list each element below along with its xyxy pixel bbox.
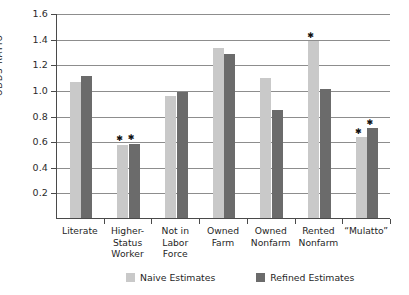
y-axis-tick-label: 1.6 [22, 8, 48, 19]
bar-group [70, 14, 93, 218]
x-axis-tick-mark [247, 219, 248, 224]
legend-item-naive: Naive Estimates [126, 272, 215, 283]
bar [260, 78, 271, 218]
bar-group: ✱✱ [117, 14, 140, 218]
legend-swatch-refined [256, 273, 265, 282]
chart-legend: Naive EstimatesRefined Estimates [126, 272, 354, 283]
bar [70, 82, 81, 218]
y-axis-tick-label: 1.4 [22, 34, 48, 45]
odds-ratio-bar-chart: ODDS RATIO 1.61.41.21.00.80.60.40.2 ✱✱✱✱… [0, 0, 409, 295]
y-axis-tick-label: 0.6 [22, 136, 48, 147]
significance-asterisk: ✱ [307, 32, 315, 40]
significance-asterisk: ✱ [116, 135, 124, 143]
plot-area: ✱✱✱✱✱ [56, 14, 390, 219]
x-axis-category-label: Owned Nonfarm [247, 225, 295, 248]
x-axis-category-label: Rented Nonfarm [295, 225, 343, 248]
legend-label: Refined Estimates [270, 272, 354, 283]
bar [177, 92, 188, 218]
y-axis-tick-label: 0.2 [22, 187, 48, 198]
bar-group [260, 14, 283, 218]
bar [224, 54, 235, 218]
significance-asterisk: ✱ [128, 134, 136, 142]
bar [320, 89, 331, 218]
bar [81, 76, 92, 218]
x-axis-tick-mark [199, 219, 200, 224]
legend-label: Naive Estimates [140, 272, 215, 283]
legend-item-refined: Refined Estimates [256, 272, 354, 283]
bar [367, 128, 378, 218]
x-axis-tick-mark [104, 219, 105, 224]
bar [117, 145, 128, 218]
x-axis-tick-mark [151, 219, 152, 224]
y-axis-title: ODDS RATIO [0, 34, 4, 96]
x-axis-tick-mark [390, 219, 391, 224]
bar-group: ✱✱ [356, 14, 379, 218]
bar-group [213, 14, 236, 218]
y-axis-tick-label: 1.0 [22, 85, 48, 96]
x-axis-tick-mark [342, 219, 343, 224]
bar [308, 41, 319, 218]
bar [356, 137, 367, 218]
x-axis-category-label: Higher- Status Worker [104, 225, 152, 260]
x-axis-category-label: “Mulatto” [342, 225, 390, 237]
bar-group: ✱ [308, 14, 331, 218]
legend-swatch-naive [126, 273, 135, 282]
significance-asterisk: ✱ [366, 119, 374, 127]
significance-asterisk: ✱ [355, 128, 363, 136]
bar [165, 96, 176, 218]
y-axis-tick-label: 1.2 [22, 59, 48, 70]
y-axis-tick-label: 0.4 [22, 162, 48, 173]
bar-group [165, 14, 188, 218]
x-axis-category-label: Not in Labor Force [151, 225, 199, 260]
bar [213, 48, 224, 218]
bar [129, 144, 140, 218]
x-axis-category-label: Literate [56, 225, 104, 237]
bar [272, 110, 283, 218]
x-axis-category-label: Owned Farm [199, 225, 247, 248]
x-axis-tick-mark [295, 219, 296, 224]
y-axis-tick-label: 0.8 [22, 111, 48, 122]
